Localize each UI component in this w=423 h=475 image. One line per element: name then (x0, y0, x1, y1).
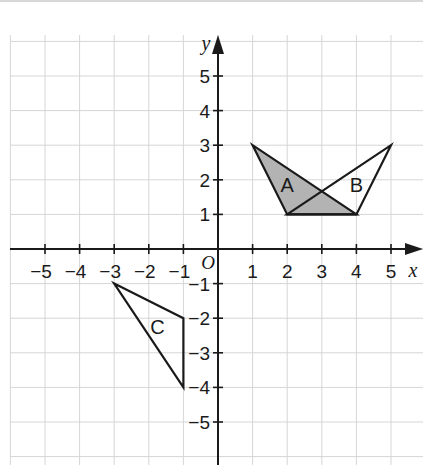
x-tick-label: −2 (134, 261, 156, 282)
y-axis-arrow-icon (212, 35, 224, 54)
y-tick-label: 2 (199, 170, 210, 191)
shape-label-b: B (350, 174, 363, 196)
x-tick-label: −4 (65, 261, 87, 282)
x-tick-label: 3 (317, 261, 328, 282)
y-tick-label: −5 (188, 412, 210, 433)
x-tick-label: −1 (169, 261, 191, 282)
coordinate-grid: ABC −5−4−3−2−11234554321−1−2−3−4−5xyO (0, 0, 423, 475)
y-tick-label: 5 (199, 66, 210, 87)
y-axis-label: y (200, 32, 211, 55)
shape-label-a: A (281, 174, 295, 196)
y-tick-label: 3 (199, 135, 210, 156)
y-tick-label: −1 (188, 274, 210, 295)
y-tick-label: −4 (188, 377, 210, 398)
y-tick-label: −2 (188, 308, 210, 329)
x-tick-label: 4 (351, 261, 362, 282)
origin-label: O (201, 252, 215, 273)
axes (10, 35, 423, 465)
tick-labels: −5−4−3−2−11234554321−1−2−3−4−5xyO (30, 32, 417, 433)
x-tick-label: 1 (247, 261, 258, 282)
x-tick-label: −3 (99, 261, 121, 282)
x-tick-label: 5 (386, 261, 397, 282)
y-tick-label: 1 (199, 204, 210, 225)
y-tick-label: −3 (188, 343, 210, 364)
y-tick-label: 4 (199, 101, 210, 122)
x-tick-label: 2 (282, 261, 293, 282)
shape-label-c: C (150, 316, 164, 338)
x-tick-label: −5 (30, 261, 52, 282)
x-axis-label: x (408, 259, 418, 281)
x-axis-arrow-icon (405, 243, 423, 255)
